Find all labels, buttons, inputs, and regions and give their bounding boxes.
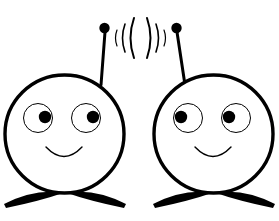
- right-robot-head: [154, 75, 273, 193]
- right-robot-right-eye-pupil: [223, 111, 235, 123]
- left-robot-head: [5, 75, 124, 193]
- right-robot-left-eye-pupil: [175, 111, 187, 123]
- left-robot-left-eye-pupil: [39, 111, 51, 123]
- illustration-canvas: [0, 0, 279, 221]
- robot-pair-illustration: [0, 0, 279, 221]
- left-robot-antenna-tip: [99, 23, 109, 33]
- right-robot-antenna-tip: [171, 23, 181, 33]
- left-robot-right-eye-pupil: [87, 111, 99, 123]
